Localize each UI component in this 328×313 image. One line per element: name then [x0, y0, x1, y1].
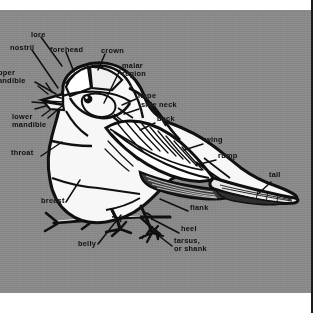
- label-malar-region: malar region: [122, 62, 146, 79]
- bird-eye-icon: [84, 95, 93, 104]
- bird-topography-figure: lore nostril forehead crown malar region…: [0, 0, 328, 313]
- label-nostril: nostril: [10, 44, 34, 52]
- bird-body: [32, 63, 298, 242]
- label-lore: lore: [31, 31, 46, 39]
- label-forehead: forehead: [50, 46, 83, 54]
- label-upper-mandible: pper andible: [0, 69, 26, 86]
- label-belly: belly: [78, 240, 96, 248]
- page-border-rule: [311, 0, 313, 313]
- label-tail: tail: [269, 171, 281, 179]
- illustration-plate: lore nostril forehead crown malar region…: [0, 10, 311, 293]
- label-lower-mandible: lower mandible: [12, 113, 46, 130]
- label-side-neck: side neck: [141, 101, 177, 109]
- bird-line-art: [0, 10, 311, 293]
- label-wing: wing: [205, 136, 223, 144]
- label-throat: throat: [11, 149, 33, 157]
- label-flank: flank: [190, 204, 209, 212]
- label-tarsus-or-shank: tarsus, or shank: [174, 237, 207, 254]
- label-heel: heel: [181, 225, 197, 233]
- label-breast: breast: [41, 197, 65, 205]
- label-rump: rump: [218, 152, 237, 160]
- label-crown: crown: [101, 47, 124, 55]
- label-back: back: [157, 115, 175, 123]
